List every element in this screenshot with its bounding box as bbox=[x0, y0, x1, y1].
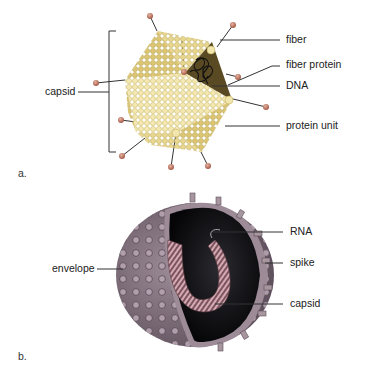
label-protein-unit: protein unit bbox=[286, 119, 338, 131]
icosahedral-virus-illustration bbox=[0, 0, 370, 370]
panel-a-letter: a. bbox=[18, 167, 27, 179]
label-fiber-protein: fiber protein bbox=[286, 58, 341, 70]
capsid-bracket bbox=[78, 31, 116, 152]
enveloped-virus-illustration bbox=[116, 193, 274, 351]
label-rna: RNA bbox=[290, 225, 312, 237]
label-dna: DNA bbox=[286, 79, 308, 91]
label-capsid-a: capsid bbox=[45, 85, 75, 97]
panel-b-letter: b. bbox=[18, 350, 27, 362]
label-fiber: fiber bbox=[286, 33, 306, 45]
label-spike: spike bbox=[290, 256, 315, 268]
label-envelope: envelope bbox=[52, 262, 95, 274]
label-capsid-b: capsid bbox=[290, 297, 320, 309]
